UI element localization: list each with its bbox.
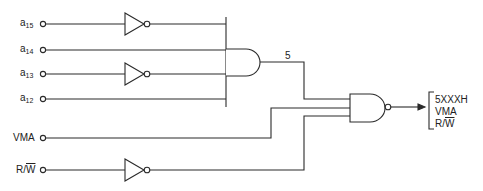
a15-inverter-icon: [125, 13, 144, 35]
output-arrow-icon: [418, 104, 425, 110]
rw-input-terminal: [40, 167, 45, 172]
a13-inverter-icon: [125, 63, 144, 85]
logic-diagram: [0, 0, 483, 191]
output-line-address: 5XXXH: [435, 94, 468, 106]
rw-label: R/W: [16, 165, 35, 175]
a15-label: a15: [20, 18, 33, 29]
a12-label: a12: [20, 93, 33, 104]
a14-input-terminal: [40, 47, 45, 52]
output-labels: 5XXXH VMA R/W: [435, 94, 468, 130]
vma-input-terminal: [40, 135, 45, 140]
a12-input-terminal: [40, 96, 45, 101]
and-output-label: 5: [285, 51, 291, 61]
a15-input-terminal: [40, 21, 45, 26]
output-line-rw: R/W: [435, 118, 468, 130]
nand-gate-icon: [350, 94, 385, 122]
rw-inverter-icon: [125, 159, 144, 181]
vma-label: VMA: [13, 133, 35, 143]
and-gate-icon: [226, 49, 260, 76]
a13-input-terminal: [40, 71, 45, 76]
a14-label: a14: [20, 44, 33, 55]
output-line-vma: VMA: [435, 106, 468, 118]
a13-label: a13: [20, 68, 33, 79]
output-bracket: [429, 92, 434, 129]
